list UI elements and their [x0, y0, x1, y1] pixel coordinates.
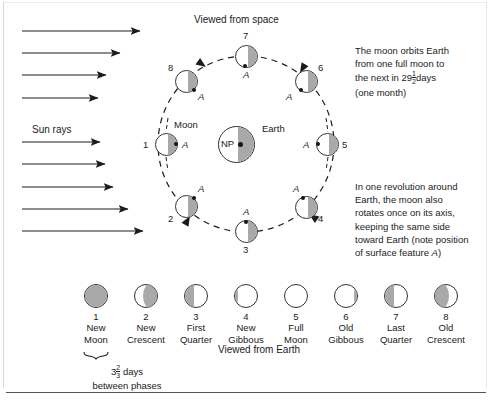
phase-interval-brace: [84, 352, 108, 359]
interval-unit: days: [123, 366, 143, 377]
moon-phases-diagram: Viewed from space Viewed from Earth: [0, 0, 492, 405]
interval-line2: between phases: [92, 380, 161, 391]
fraction-two-thirds: 23: [116, 364, 120, 380]
phase-interval-label: 323 days between phases: [72, 364, 182, 392]
phase-interval-brace-group: [0, 0, 492, 405]
